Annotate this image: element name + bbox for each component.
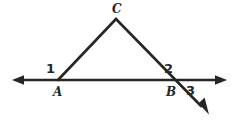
right-arrowhead-icon	[215, 75, 227, 85]
left-arrowhead-icon	[12, 75, 24, 85]
geometry-figure-svg	[0, 0, 237, 121]
segment-AC	[58, 19, 116, 80]
angle-label-3: 3	[186, 84, 195, 97]
vertex-label-c: C	[112, 3, 122, 15]
ray-CB-extended-group	[116, 19, 209, 115]
vertex-label-b: B	[166, 86, 176, 98]
geometry-diagram: C 1 A 2 B 3	[0, 0, 237, 121]
angle-label-1: 1	[46, 62, 55, 75]
vertex-label-a: A	[53, 86, 62, 98]
angle-label-2: 2	[164, 62, 173, 75]
